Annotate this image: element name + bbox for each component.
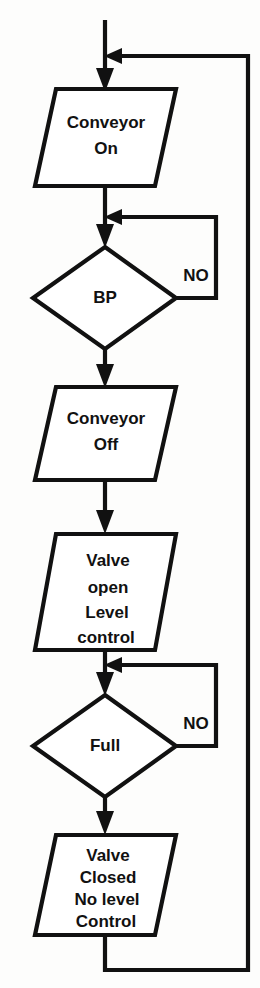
connector-bp-to-conveyor-off [96,349,114,388]
bp-no-label: NO [183,266,209,285]
bp-entry-arrowhead [96,224,114,248]
valve-open-entry-arrowhead [96,510,114,534]
valve-open-line4: control [77,628,135,647]
valve-closed-line1: Valve [86,846,130,865]
conveyor-off-line1: Conveyor [67,409,146,428]
valve-closed-line2: Closed [80,868,137,887]
valve-open-line3: Level [85,603,128,622]
node-conveyor-off[interactable]: Conveyor Off [35,387,176,480]
node-bp-decision[interactable]: BP [33,247,176,349]
bp-decision-label: BP [93,288,117,307]
flowchart-diagram: Conveyor On BP NO Conveyor Off [0,0,260,988]
full-entry-arrowhead [96,672,114,696]
valve-closed-line4: Control [76,912,136,931]
node-valve-closed[interactable]: Valve Closed No level Control [35,835,176,935]
node-conveyor-on[interactable]: Conveyor On [35,89,176,186]
valve-closed-line3: No level [74,890,139,909]
conveyor-on-line2: On [94,139,118,158]
node-valve-open[interactable]: Valve open Level control [35,534,176,650]
node-full-decision[interactable]: Full [33,695,176,797]
flowchart-canvas: Conveyor On BP NO Conveyor Off [0,0,260,988]
conveyor-on-line1: Conveyor [67,113,146,132]
conveyor-off-line2: Off [94,435,119,454]
valve-closed-entry-arrowhead [96,811,114,835]
conveyor-off-entry-arrowhead [96,364,114,388]
valve-open-line1: Valve [86,551,130,570]
conveyor-off-shape [35,387,176,480]
connector-full-to-valve-closed [96,797,114,835]
full-decision-label: Full [90,736,120,755]
full-no-label: NO [183,714,209,733]
conveyor-on-shape [35,89,176,186]
valve-open-line2: open [88,578,129,597]
connector-conveyor-off-to-valve-open [96,480,114,534]
